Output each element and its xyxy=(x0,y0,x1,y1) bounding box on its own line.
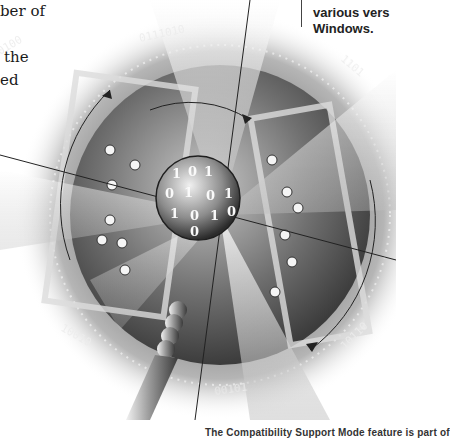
svg-text:0: 0 xyxy=(190,208,199,223)
svg-text:0: 0 xyxy=(190,224,199,239)
svg-text:1: 1 xyxy=(204,164,213,179)
svg-text:1: 1 xyxy=(172,166,181,181)
svg-text:0: 0 xyxy=(227,204,236,219)
binary-magnifier-illustration: 0111010 0100 1101 00101 10010 10110 101 … xyxy=(0,0,396,420)
svg-text:1: 1 xyxy=(224,186,233,201)
svg-text:1: 1 xyxy=(170,206,179,221)
figure-caption: The Compatibility Support Mode feature i… xyxy=(205,427,450,438)
svg-text:0100: 0100 xyxy=(0,33,24,58)
svg-text:0: 0 xyxy=(188,164,197,179)
binary-sphere: 101 0101 1010 0 xyxy=(156,156,240,240)
svg-text:0: 0 xyxy=(206,188,215,203)
svg-text:1: 1 xyxy=(184,185,193,200)
svg-text:1: 1 xyxy=(210,208,219,223)
svg-text:0: 0 xyxy=(165,186,174,201)
